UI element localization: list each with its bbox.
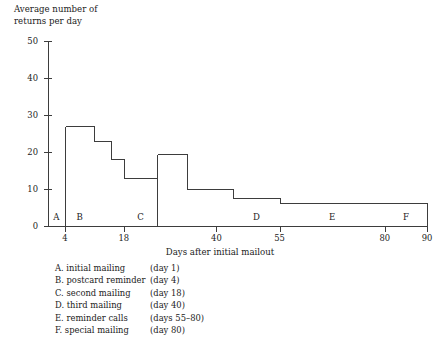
legend-row: E. reminder calls(days 55–80) [55,312,204,324]
phase-label-a: A [46,212,66,222]
phase-label-b: B [70,212,90,222]
legend-row: C. second mailing(day 18) [55,287,204,299]
x-tick-label: 90 [415,233,439,243]
legend-entry-name: E. reminder calls [55,312,150,324]
legend-row: D. third mailing(day 40) [55,299,204,311]
legend-entry-day: (day 1) [150,262,180,274]
legend-entry-day: (day 40) [150,299,185,311]
legend-entry-name: B. postcard reminder [55,274,150,286]
x-tick-label: 55 [268,233,292,243]
legend-entry-day: (day 4) [150,274,180,286]
legend-entry-name: A. initial mailing [55,262,150,274]
legend-entry-name: D. third mailing [55,299,150,311]
x-tick-label: 18 [112,233,136,243]
histogram-figure: Average number of returns per day 010203… [0,0,440,350]
phase-label-f: F [396,212,416,222]
x-tick-label: 4 [53,233,77,243]
y-tick-label: 40 [16,73,38,83]
y-tick-label: 30 [16,110,38,120]
x-tick-label: 40 [204,233,228,243]
y-tick-label: 20 [16,147,38,157]
legend-row: A. initial mailing(day 1) [55,262,204,274]
legend-row: F. special mailing(day 80) [55,324,204,336]
legend-entry-day: (day 80) [150,324,185,336]
legend-entry-name: F. special mailing [55,324,150,336]
phase-label-c: C [131,212,151,222]
y-tick-label: 0 [16,221,38,231]
x-tick-label: 80 [373,233,397,243]
phase-label-e: E [322,212,342,222]
legend-row: B. postcard reminder(day 4) [55,274,204,286]
legend-entry-name: C. second mailing [55,287,150,299]
y-tick-label: 50 [16,36,38,46]
y-tick-label: 10 [16,184,38,194]
x-axis-title: Days after initial mailout [0,247,440,257]
legend: A. initial mailing(day 1)B. postcard rem… [55,262,204,336]
phase-label-d: D [246,212,266,222]
legend-entry-day: (day 18) [150,287,185,299]
legend-entry-day: (days 55–80) [150,312,204,324]
